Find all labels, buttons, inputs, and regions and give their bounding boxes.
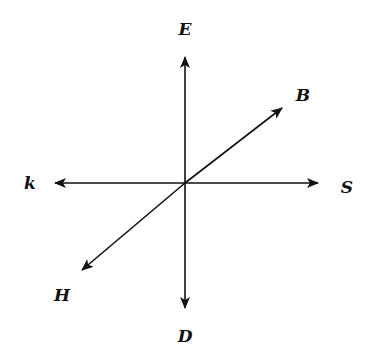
label-B: B: [295, 85, 310, 105]
ray-B: [185, 108, 282, 183]
label-S: S: [341, 177, 353, 197]
label-E: E: [178, 19, 193, 39]
label-H: H: [53, 285, 71, 305]
label-D: D: [177, 326, 193, 346]
ray-H: [82, 183, 185, 270]
label-k: k: [24, 173, 36, 193]
rays-diagram: E D k S B H: [0, 0, 373, 362]
diagram-canvas: E D k S B H: [0, 0, 373, 362]
